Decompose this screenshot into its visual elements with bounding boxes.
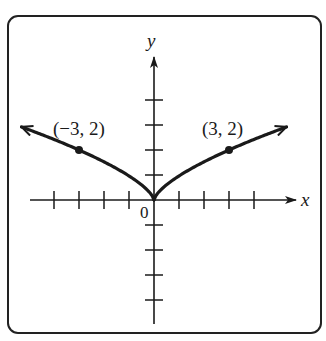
y-axis-label: y [145, 30, 156, 51]
point-right [225, 146, 233, 154]
point-left-label: (−3, 2) [53, 118, 105, 140]
point-left [75, 146, 83, 154]
origin-label: 0 [140, 203, 149, 222]
point-right-label: (3, 2) [202, 118, 243, 140]
graph-figure: y x 0 (−3, 2) (3, 2) [0, 0, 326, 341]
graph-frame [8, 16, 321, 333]
x-axis-label: x [300, 189, 310, 210]
